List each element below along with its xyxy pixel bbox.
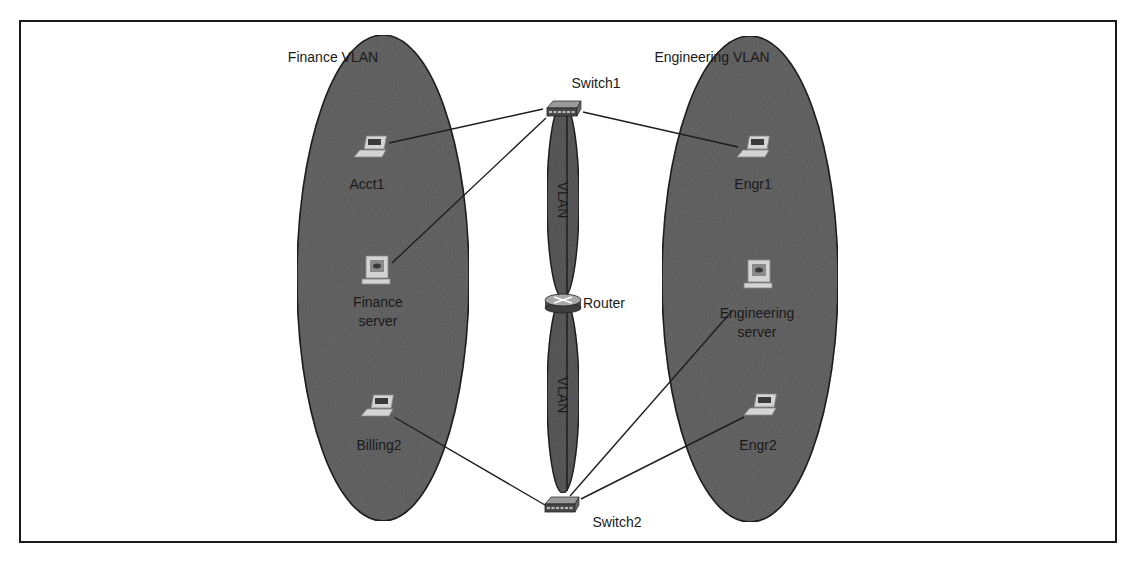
engineering-vlan-label: Engineering VLAN [654, 49, 769, 65]
vlan-trunk-label: VLAN [555, 182, 571, 219]
finance-vlan-label: Finance VLAN [288, 49, 378, 65]
switch2-switch-icon [545, 497, 579, 512]
engineering-server-label-line-2: server [738, 324, 777, 340]
vlan-trunk-label: VLAN [555, 377, 571, 414]
switch1-label: Switch1 [571, 75, 620, 91]
switch1-switch-icon [547, 101, 581, 116]
finance-server-server-icon [362, 256, 390, 284]
engr1-label: Engr1 [734, 176, 772, 192]
engineering-server-label-line-1: Engineering [720, 305, 795, 321]
finance-server-label-line-1: Finance [353, 294, 403, 310]
engr2-label: Engr2 [739, 437, 777, 453]
network-vlan-diagram: VLANVLAN Finance VLANEngineering VLANSwi… [0, 0, 1138, 564]
finance-server-label-line-2: server [359, 313, 398, 329]
acct1-label: Acct1 [349, 176, 384, 192]
router-router-icon [545, 294, 581, 313]
billing2-label: Billing2 [356, 437, 401, 453]
engineering-server-server-icon [744, 260, 772, 288]
switch2-label: Switch2 [592, 514, 641, 530]
router-label: Router [583, 295, 625, 311]
